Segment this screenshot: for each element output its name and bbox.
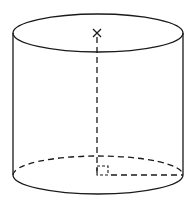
bottom-face-front-solid: [13, 175, 183, 194]
top-center-x-mark-icon: [93, 29, 101, 37]
cylinder-diagram: [0, 0, 196, 205]
top-face-ellipse: [13, 14, 183, 52]
right-angle-marker: [97, 166, 108, 175]
